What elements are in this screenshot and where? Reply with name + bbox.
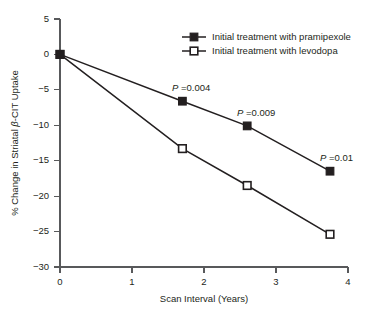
y-axis-title-pre: % Change in Striatal (9, 127, 20, 216)
p-value-annotation-2: P =0.009 (237, 107, 275, 118)
y-axis-title-post: -CIT Uptake (9, 70, 20, 121)
legend-item-levodopa: Initial treatment with levodopa (182, 45, 338, 56)
y-tick-label: −30 (33, 261, 49, 272)
legend-label-levodopa: Initial treatment with levodopa (212, 45, 338, 56)
p-rest-2: =0.009 (243, 107, 275, 118)
series-levodopa (56, 51, 334, 239)
y-tick-label: −25 (33, 225, 49, 236)
legend-marker-filled-square (190, 33, 198, 41)
series-pramipexole-line (60, 54, 330, 171)
data-point-levodopa (243, 182, 251, 190)
y-tick-label: 5 (44, 13, 49, 24)
x-tick-label: 0 (57, 276, 62, 287)
data-point-pramipexole (243, 122, 251, 130)
data-point-levodopa (179, 145, 187, 153)
figure-container: 5 0 −5 −10 −15 −20 −25 −30 0 1 2 3 4 Sca… (0, 0, 372, 312)
y-tick-label: 0 (44, 48, 49, 59)
data-point-pramipexole (326, 167, 334, 175)
y-axis-title: % Change in Striatal β-CIT Uptake (9, 70, 20, 216)
y-tick-label: −15 (33, 154, 49, 165)
data-point-levodopa (326, 231, 334, 239)
line-chart: 5 0 −5 −10 −15 −20 −25 −30 0 1 2 3 4 Sca… (0, 0, 372, 312)
x-tick-label: 4 (345, 276, 350, 287)
p-value-annotations: P =0.004 P =0.009 P =0.01 (172, 82, 353, 163)
chart-legend: Initial treatment with pramipexole Initi… (182, 31, 351, 56)
p-rest-1: =0.004 (178, 82, 210, 93)
p-value-annotation-3: P =0.01 (320, 152, 353, 163)
x-axis-title: Scan Interval (Years) (160, 293, 248, 304)
y-tick-label: −5 (38, 83, 49, 94)
y-tick-label: −20 (33, 190, 49, 201)
y-tick-label: −10 (33, 119, 49, 130)
p-rest-3: =0.01 (326, 152, 353, 163)
p-value-annotation-1: P =0.004 (172, 82, 210, 93)
legend-item-pramipexole: Initial treatment with pramipexole (182, 31, 351, 42)
data-point-pramipexole (179, 97, 187, 105)
svg-text:% Change in Striatal β-CIT Upt: % Change in Striatal β-CIT Uptake (9, 70, 20, 216)
legend-marker-open-square (190, 47, 198, 55)
legend-label-pramipexole: Initial treatment with pramipexole (212, 31, 351, 42)
data-point-pramipexole (56, 51, 64, 59)
x-tick-label: 1 (129, 276, 134, 287)
x-ticks-group: 0 1 2 3 4 (57, 267, 350, 287)
x-tick-label: 2 (201, 276, 206, 287)
x-tick-label: 3 (273, 276, 278, 287)
